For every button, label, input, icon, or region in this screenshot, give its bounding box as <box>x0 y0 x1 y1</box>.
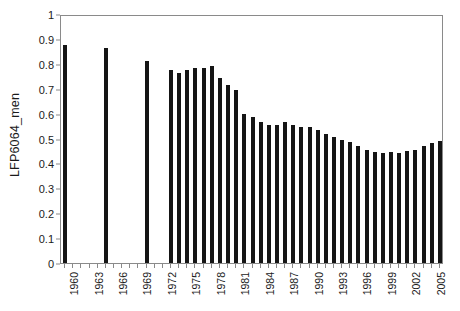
y-axis-tick-label: 0.4 <box>39 158 54 170</box>
x-axis-tick-mark <box>154 264 155 268</box>
x-axis-tick-mark <box>292 264 293 268</box>
bar <box>348 142 352 263</box>
x-axis-tick-mark <box>72 264 73 268</box>
x-axis-tick-mark <box>219 264 220 268</box>
bar-series <box>61 16 442 263</box>
x-axis-tick-mark <box>129 264 130 268</box>
bar <box>324 134 328 263</box>
x-axis-tick-mark <box>276 264 277 268</box>
bar <box>308 127 312 263</box>
bar <box>218 78 222 264</box>
x-axis-tick-label: 1999 <box>386 272 398 295</box>
bar <box>389 152 393 263</box>
chart-figure: LFP6064_men 00.10.20.30.40.50.60.70.80.9… <box>0 0 460 311</box>
x-axis-tick-label: 1978 <box>215 272 227 295</box>
bar <box>234 90 238 263</box>
bar <box>202 68 206 263</box>
bar <box>291 125 295 263</box>
x-axis-tick-mark <box>113 264 114 268</box>
x-axis-tick-label: 1981 <box>239 272 251 295</box>
bar <box>210 66 214 263</box>
y-axis-tick-label: 0.5 <box>39 134 54 146</box>
bar <box>430 143 434 263</box>
y-axis-tick-label: 0.9 <box>39 34 54 46</box>
bar <box>299 127 303 263</box>
x-axis-tick-mark <box>146 264 147 268</box>
x-axis-tick-mark <box>398 264 399 268</box>
x-axis-tick-mark <box>64 264 65 268</box>
x-axis-tick-mark <box>300 264 301 268</box>
x-axis-tick-mark <box>137 264 138 268</box>
x-axis-tick-label: 1960 <box>68 272 80 295</box>
bar <box>283 122 287 263</box>
plot-area <box>60 15 443 264</box>
x-axis-tick-mark <box>121 264 122 268</box>
x-axis-tick-label: 1990 <box>313 272 325 295</box>
x-axis-tick-mark <box>390 264 391 268</box>
bar <box>145 61 149 263</box>
y-axis-tick-label: 0.7 <box>39 84 54 96</box>
bar <box>251 117 255 263</box>
x-axis-tick-mark <box>178 264 179 268</box>
x-axis-tick-mark <box>170 264 171 268</box>
bar <box>316 130 320 263</box>
bar <box>373 152 377 263</box>
bar <box>332 137 336 263</box>
x-axis-tick-mark <box>349 264 350 268</box>
bar <box>193 68 197 263</box>
x-axis-tick-mark <box>211 264 212 268</box>
x-axis-tick-mark <box>431 264 432 268</box>
x-axis-tick-mark <box>252 264 253 268</box>
x-axis-tick-mark <box>317 264 318 268</box>
x-axis-tick-mark <box>260 264 261 268</box>
x-axis-tick-mark <box>186 264 187 268</box>
x-axis-tick-mark <box>89 264 90 268</box>
x-axis-tick-label: 1987 <box>288 272 300 295</box>
y-axis-tick-label: 0.6 <box>39 109 54 121</box>
x-axis-tick-mark <box>423 264 424 268</box>
x-axis-tick-label: 1963 <box>93 272 105 295</box>
x-axis-tick-mark <box>333 264 334 268</box>
x-axis-tick-mark <box>194 264 195 268</box>
y-axis-ticks: 00.10.20.30.40.50.60.70.80.91 <box>0 0 60 311</box>
x-axis-tick-mark <box>162 264 163 268</box>
bar <box>185 70 189 263</box>
x-axis-tick-mark <box>97 264 98 268</box>
x-axis-tick-mark <box>309 264 310 268</box>
bar <box>413 150 417 263</box>
bar <box>365 150 369 263</box>
bar <box>340 140 344 263</box>
x-axis-tick-mark <box>357 264 358 268</box>
y-axis-tick-label: 0.8 <box>39 59 54 71</box>
bar <box>63 45 67 263</box>
x-axis-tick-mark <box>366 264 367 268</box>
y-axis-tick-label: 1 <box>48 9 54 21</box>
x-axis-tick-mark <box>341 264 342 268</box>
bar <box>275 125 279 263</box>
x-axis-tick-label: 1972 <box>166 272 178 295</box>
bar <box>356 146 360 263</box>
x-axis-tick-label: 1996 <box>361 272 373 295</box>
bar <box>267 125 271 263</box>
y-axis-tick-label: 0.1 <box>39 233 54 245</box>
x-axis-tick-mark <box>203 264 204 268</box>
x-axis-tick-mark <box>105 264 106 268</box>
bar <box>438 141 442 263</box>
bar <box>381 153 385 263</box>
x-axis-tick-mark <box>80 264 81 268</box>
x-axis-tick-mark <box>268 264 269 268</box>
bar <box>259 122 263 263</box>
x-axis-tick-mark <box>374 264 375 268</box>
x-axis-tick-label: 1969 <box>141 272 153 295</box>
bar <box>169 70 173 263</box>
x-axis-tick-label: 1993 <box>337 272 349 295</box>
x-axis-tick-label: 1984 <box>264 272 276 295</box>
x-axis-tick-mark <box>243 264 244 268</box>
bar <box>177 73 181 263</box>
x-axis-tick-mark <box>406 264 407 268</box>
x-axis-ticks: 1960196319661969197219751978198119841987… <box>60 264 443 311</box>
y-axis-tick-label: 0 <box>48 258 54 270</box>
bar <box>397 153 401 263</box>
x-axis-tick-mark <box>382 264 383 268</box>
x-axis-tick-mark <box>414 264 415 268</box>
